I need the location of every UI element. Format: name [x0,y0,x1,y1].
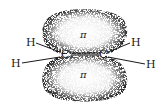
pi-bond-diagram: C C H H H H π π [0,0,167,106]
pi-upper-label: π [79,29,87,40]
carbon-left-label: C [61,48,69,61]
hydrogen-left-lower-label: H [11,57,21,70]
hydrogen-left-upper-label: H [26,36,36,49]
hydrogen-right-lower-label: H [146,58,156,71]
hydrogen-right-upper-label: H [131,36,141,49]
orbital-figure: C C H H H H π π [0,0,167,106]
pi-lower-label: π [79,69,87,80]
carbon-right-label: C [99,48,107,61]
